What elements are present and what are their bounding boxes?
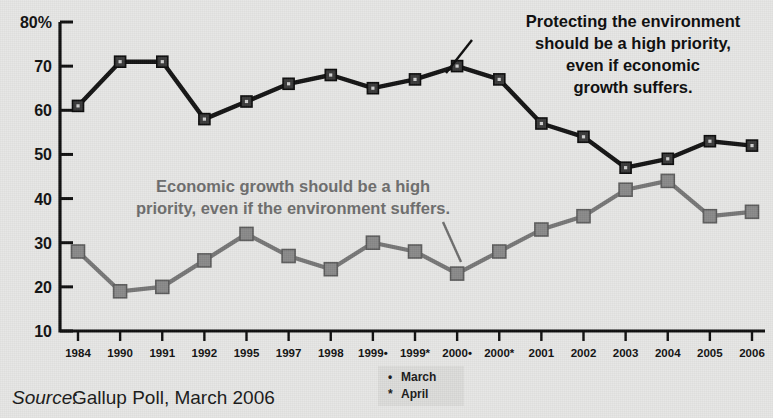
y-tick-label-70: 70 [34,58,52,75]
legend-marker-april: * [388,387,393,401]
x-tick-label-2005: 2005 [697,347,723,359]
x-tick-label-2006: 2006 [739,347,765,359]
legend-label-april: April [401,387,428,401]
dark-annotation-line-4: growth suffers. [573,78,692,96]
dark-annotation-line-2: should be a high priority, [535,34,731,52]
source-note: Source: Gallup Poll, March 2006 [12,387,275,408]
x-tick-label-1991: 1991 [149,347,175,359]
data-point-2004 [661,174,674,187]
data-point-2000* [493,245,506,258]
source-label: Source: [12,387,77,408]
x-tick-label-2002: 2002 [571,347,597,359]
data-point-highlight [287,82,290,85]
x-axis-tick-labels: 19841990199119921995199719981999•1999*20… [65,347,765,359]
y-tick-label-50: 50 [34,146,52,163]
annotation-leader-lines [443,40,472,262]
data-point-2002 [577,210,590,223]
data-point-highlight [413,78,416,81]
data-point-highlight [456,65,459,68]
source-text: Gallup Poll, March 2006 [72,387,275,408]
chart-container: 1020304050607080% 1984199019911992199519… [0,0,773,418]
data-point-2000• [451,267,464,280]
data-point-highlight [666,157,669,160]
dark-annotation-line-1: Protecting the environment [526,12,741,30]
data-point-highlight [203,118,206,121]
x-tick-label-1984: 1984 [65,347,91,359]
x-tick-label-1998: 1998 [318,347,344,359]
data-point-highlight [540,122,543,125]
x-tick-label-2000•: 2000• [442,347,472,359]
gray-annotation-line-2: priority, even if the environment suffer… [136,199,450,217]
y-axis-tick-labels: 1020304050607080% [20,14,52,340]
data-point-highlight [708,140,711,143]
x-tick-label-1990: 1990 [107,347,133,359]
y-tick-label-80: 80% [20,14,52,31]
data-point-highlight [119,60,122,63]
data-point-1991 [156,280,169,293]
data-point-2006 [746,205,759,218]
x-tick-label-1999•: 1999• [358,347,388,359]
data-point-highlight [624,166,627,169]
data-point-highlight [750,144,753,147]
data-point-highlight [76,104,79,107]
data-point-1995 [240,227,253,240]
data-point-1984 [72,245,85,258]
x-tick-label-1992: 1992 [192,347,218,359]
data-point-1998 [324,263,337,276]
legend: • March * April [378,366,464,406]
dark-annotation-text: Protecting the environment should be a h… [526,12,741,96]
x-tick-label-2001: 2001 [529,347,555,359]
dark-annotation-line-3: even if economic [566,56,700,74]
x-tick-label-1995: 1995 [234,347,260,359]
data-point-highlight [582,135,585,138]
series-line [78,181,752,291]
x-tick-label-2003: 2003 [613,347,639,359]
data-point-highlight [498,78,501,81]
data-point-highlight [329,73,332,76]
y-axis-ticks [60,22,73,331]
x-tick-label-1997: 1997 [276,347,302,359]
y-tick-label-10: 10 [34,323,52,340]
y-tick-label-20: 20 [34,279,52,296]
data-point-1990 [114,285,127,298]
gray-annotation-line-1: Economic growth should be a high [156,177,430,195]
data-point-2001 [535,223,548,236]
data-point-1999* [409,245,422,258]
data-point-2003 [619,183,632,196]
x-tick-label-2004: 2004 [655,347,681,359]
y-tick-label-30: 30 [34,235,52,252]
data-point-1999• [366,236,379,249]
y-tick-label-40: 40 [34,191,52,208]
gray-annotation-text: Economic growth should be a high priorit… [136,177,450,217]
data-point-highlight [161,60,164,63]
data-point-2005 [703,210,716,223]
y-tick-label-60: 60 [34,102,52,119]
data-point-1992 [198,254,211,267]
x-tick-label-1999*: 1999* [400,347,431,359]
data-point-highlight [245,100,248,103]
line-chart-svg: 1020304050607080% 1984199019911992199519… [0,0,773,418]
data-point-highlight [371,87,374,90]
data-point-1997 [282,250,295,263]
legend-label-march: March [401,370,436,384]
gray-annotation-leader-line [443,222,461,262]
legend-marker-march: • [388,370,392,384]
x-tick-label-2000*: 2000* [484,347,515,359]
